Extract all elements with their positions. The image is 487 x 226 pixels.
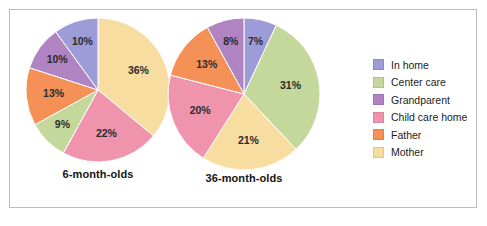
pie-slice-label: 13% [43,87,65,99]
chart-legend: In homeCenter careGrandparentChild care … [373,56,477,161]
legend-item[interactable]: Father [373,126,477,144]
legend-swatch-icon [373,129,384,140]
legend-item-label: Grandparent [391,95,450,106]
legend-item[interactable]: In home [373,56,477,74]
legend-swatch-icon [373,147,384,158]
legend-swatch-icon [373,94,384,105]
legend-item[interactable]: Grandparent [373,91,477,109]
legend-item-label: Father [391,130,421,141]
legend-swatch-icon [373,77,384,88]
pie-slice-label: 10% [47,53,69,65]
legend-swatch-icon [373,59,384,70]
pie-slice-label: 31% [280,79,302,91]
legend-item-label: Center care [391,77,446,88]
pie-chart-caption: 36-month-olds [160,172,328,184]
pie-slice-label: 10% [72,35,94,47]
legend-item[interactable]: Mother [373,144,477,162]
figure-frame: 36%22%9%13%10%10%6-month-olds 7%31%21%20… [9,9,477,208]
pie-svg: 7%31%21%20%13%8% [160,10,328,178]
legend-item-label: Child care home [391,112,467,123]
pie-slice-label: 9% [55,118,71,130]
pie-slice-label: 20% [190,104,212,116]
legend-item-label: Mother [391,147,424,158]
pie-chart-36-month-olds: 7%31%21%20%13%8%36-month-olds [160,10,328,194]
legend-item[interactable]: Child care home [373,109,477,127]
pie-slice-label: 21% [238,134,260,146]
pie-chart-caption: 6-month-olds [18,168,178,180]
pie-svg: 36%22%9%13%10%10% [18,10,178,170]
pie-slice-label: 36% [128,64,150,76]
legend-item-label: In home [391,60,429,71]
pie-chart-6-month-olds: 36%22%9%13%10%10%6-month-olds [18,10,178,190]
legend-swatch-icon [373,112,384,123]
pie-slice-label: 13% [196,58,218,70]
pie-slice-label: 7% [248,35,264,47]
pie-slice-label: 22% [96,127,118,139]
legend-item[interactable]: Center care [373,74,477,92]
pie-slice-label: 8% [223,35,239,47]
